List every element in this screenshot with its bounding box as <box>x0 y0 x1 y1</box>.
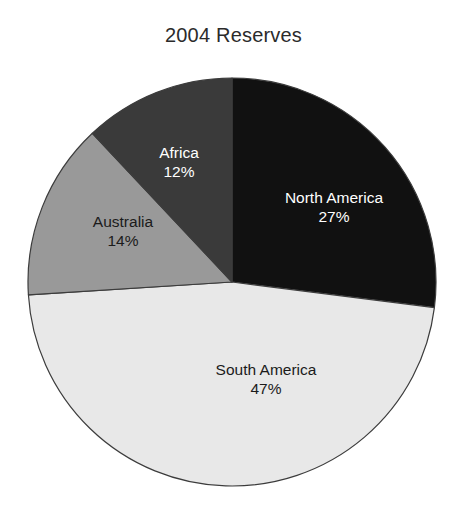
pie-slice-south-america <box>28 282 434 486</box>
pie-chart: 2004 Reserves North America 27% South Am… <box>0 0 467 531</box>
pie-svg <box>0 0 467 531</box>
pie-slice-north-america <box>232 78 436 308</box>
pie-slice-group <box>28 78 436 486</box>
